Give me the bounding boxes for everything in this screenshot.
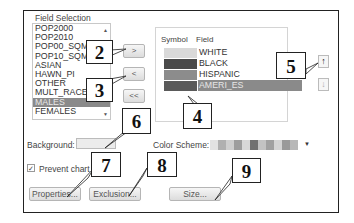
callout-5: 5: [276, 52, 306, 79]
callout-3: 3: [86, 78, 113, 102]
callout-pointers: [0, 0, 354, 223]
callout-9: 9: [232, 158, 261, 183]
callout-4: 4: [183, 103, 212, 129]
callout-7: 7: [91, 152, 121, 177]
callout-8: 8: [147, 152, 177, 177]
callout-6: 6: [122, 108, 151, 134]
callout-2: 2: [86, 40, 113, 64]
